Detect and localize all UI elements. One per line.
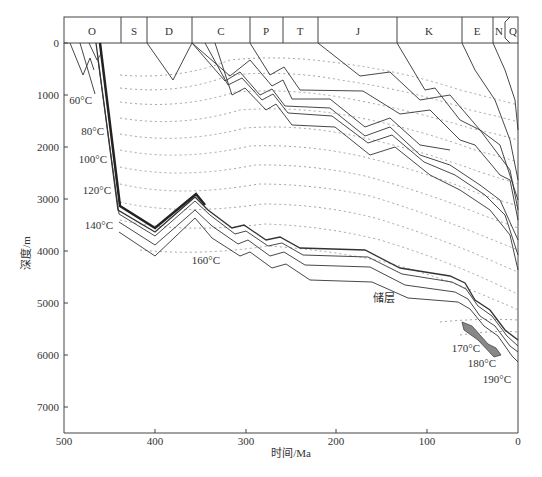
plot-frame (64, 43, 518, 433)
period-D: D (165, 25, 173, 37)
label-160c: 160°C (192, 254, 220, 266)
y-tick-5000: 5000 (37, 297, 60, 309)
x-tick-100: 100 (419, 435, 436, 447)
x-tick-400: 400 (147, 435, 164, 447)
temperature-labels: 60°C 80°C 100°C 120°C 140°C 160°C 170°C … (69, 94, 511, 385)
y-tick-6000: 6000 (37, 349, 60, 361)
label-190c: 190°C (483, 373, 511, 385)
period-S: S (131, 25, 137, 37)
label-60c: 60°C (69, 94, 92, 106)
period-P: P (263, 25, 269, 37)
y-axis: 0 1000 2000 3000 4000 5000 6000 7000 深度/… (19, 37, 68, 413)
period-E: E (474, 25, 481, 37)
period-K: K (425, 25, 433, 37)
period-J: J (356, 25, 361, 37)
y-tick-3000: 3000 (37, 193, 60, 205)
period-T: T (297, 25, 304, 37)
x-tick-0: 0 (515, 435, 521, 447)
y-axis-title: 深度/m (19, 236, 32, 270)
x-tick-300: 300 (238, 435, 255, 447)
y-tick-7000: 7000 (37, 401, 60, 413)
period-Q: Q (509, 25, 517, 37)
label-140c: 140°C (85, 219, 113, 231)
label-170c: 170°C (452, 342, 480, 354)
y-tick-4000: 4000 (37, 245, 60, 257)
x-tick-500: 500 (56, 435, 73, 447)
period-header: O S D C P T J K E N Q (64, 17, 518, 43)
x-tick-200: 200 (328, 435, 345, 447)
burial-history-chart: O S D C P T J K E N Q 0 1000 2000 3000 4… (0, 0, 542, 477)
period-N: N (495, 25, 503, 37)
y-tick-2000: 2000 (37, 141, 60, 153)
period-O: O (88, 25, 96, 37)
period-C: C (217, 25, 224, 37)
label-180c: 180°C (468, 357, 496, 369)
reservoir-label: 储层 (373, 291, 395, 304)
y-tick-0: 0 (54, 37, 60, 49)
label-80c: 80°C (81, 125, 104, 137)
label-100c: 100°C (79, 153, 107, 165)
x-axis-title: 时间/Ma (271, 447, 311, 459)
y-tick-1000: 1000 (37, 89, 60, 101)
label-120c: 120°C (83, 184, 111, 196)
